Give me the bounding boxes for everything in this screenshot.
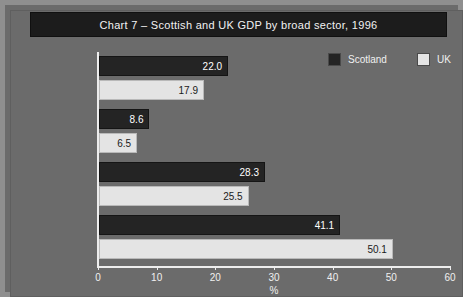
bar-uk: 50.1 — [99, 239, 393, 259]
bar-value-label: 25.5 — [223, 191, 247, 202]
bar-uk: 17.9 — [99, 80, 204, 100]
x-axis-tick-label: 0 — [78, 272, 118, 283]
bar-value-label: 17.9 — [179, 85, 203, 96]
chart-frame: Chart 7 – Scottish and UK GDP by broad s… — [0, 0, 463, 297]
x-axis-tick — [391, 266, 392, 270]
x-axis-tick-label: 60 — [430, 272, 463, 283]
bar-scotland: 28.3 — [99, 162, 265, 182]
bar-uk: 6.5 — [99, 133, 137, 153]
bar-scotland: 41.1 — [99, 215, 340, 235]
chart-canvas: Chart 7 – Scottish and UK GDP by broad s… — [10, 10, 463, 297]
plot-area: Public services 22.0 17.9 Primary 8.6 6.… — [97, 52, 451, 268]
x-axis-tick — [450, 266, 451, 270]
x-axis-tick — [333, 266, 334, 270]
x-axis-tick-label: 20 — [195, 272, 235, 283]
x-axis-tick — [157, 266, 158, 270]
x-axis-tick — [274, 266, 275, 270]
bar-value-label: 8.6 — [130, 114, 149, 125]
x-axis-tick-label: 50 — [371, 272, 411, 283]
bar-uk: 25.5 — [99, 186, 249, 206]
bar-value-label: 50.1 — [367, 244, 391, 255]
x-axis-tick — [215, 266, 216, 270]
bar-value-label: 28.3 — [240, 167, 264, 178]
x-axis-tick-label: 40 — [313, 272, 353, 283]
x-axis-title: % — [244, 285, 304, 296]
bar-scotland: 22.0 — [99, 56, 228, 76]
x-axis-tick-label: 30 — [254, 272, 294, 283]
x-axis-tick-label: 10 — [137, 272, 177, 283]
bar-value-label: 6.5 — [117, 138, 136, 149]
bar-value-label: 22.0 — [203, 61, 227, 72]
chart-title-bar: Chart 7 – Scottish and UK GDP by broad s… — [30, 12, 447, 37]
chart-title: Chart 7 – Scottish and UK GDP by broad s… — [99, 19, 377, 31]
bar-scotland: 8.6 — [99, 109, 149, 129]
bar-value-label: 41.1 — [315, 220, 339, 231]
x-axis-tick — [98, 266, 99, 270]
